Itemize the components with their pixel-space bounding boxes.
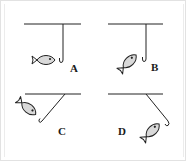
panel-a-label: A (70, 63, 78, 74)
fish-hook-diagram (0, 0, 186, 161)
panel-c-label: C (58, 126, 66, 137)
panel-d-fish (140, 121, 163, 144)
panel-a-fish (32, 56, 55, 65)
panel-b-line-hook (143, 24, 147, 62)
panel-d-label: D (118, 126, 126, 137)
panel-c-fish (15, 96, 38, 118)
panel-c-line-hook (39, 94, 65, 122)
panel-c (15, 94, 81, 122)
panel-a (24, 24, 81, 65)
panel-a-line-hook (60, 24, 64, 63)
panel-d-line-hook (146, 94, 169, 126)
panel-b-fish (117, 52, 140, 75)
panel-b-label: B (151, 62, 158, 73)
